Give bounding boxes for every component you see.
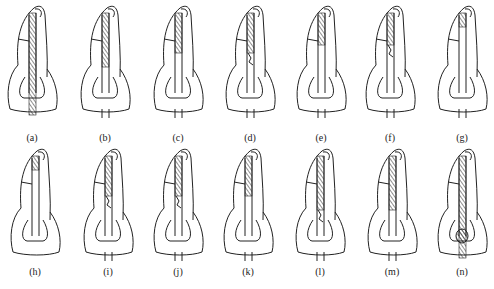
tooth-panel-h <box>11 149 60 255</box>
hatched-filling <box>247 13 254 53</box>
panel-label-j: (j) <box>173 266 182 277</box>
crown-outline <box>226 65 275 112</box>
tooth-panel-b <box>81 6 130 118</box>
post-bulb <box>456 229 468 243</box>
pulp-chamber-outline <box>380 220 405 241</box>
panel-label-f: (f) <box>385 132 395 143</box>
panel-label-b: (b) <box>99 132 111 143</box>
cej-line <box>18 39 29 41</box>
panel-label-i: (i) <box>103 266 112 277</box>
panel-label-h: (h) <box>29 266 41 277</box>
panel-label-m: (m) <box>385 266 399 277</box>
tooth-panel-l <box>296 149 345 261</box>
hatched-filling <box>29 13 36 115</box>
hatched-filling <box>387 13 394 45</box>
crown-outline <box>154 208 203 255</box>
cej-line <box>234 182 245 184</box>
crown-outline <box>368 208 417 255</box>
cej-line <box>306 182 317 184</box>
tooth-panel-c <box>154 6 203 118</box>
pulp-chamber-outline <box>378 77 403 98</box>
broken-fill-fragment <box>318 210 323 222</box>
hatched-filling <box>389 156 396 210</box>
teeth-illustration-canvas <box>0 0 494 289</box>
tooth-panel-i <box>84 149 133 261</box>
tooth-panel-k <box>224 149 273 261</box>
broken-fill-fragment <box>388 45 393 57</box>
pulp-chamber-outline <box>309 77 334 98</box>
hatched-filling <box>459 13 466 27</box>
tooth-panel-m <box>368 149 417 261</box>
crown-outline <box>81 65 130 112</box>
hatched-filling <box>175 156 182 196</box>
tooth-panel-f <box>366 6 415 118</box>
tooth-panel-g <box>438 6 487 118</box>
cej-line <box>448 39 459 41</box>
broken-fill-fragment <box>248 53 253 65</box>
pulp-chamber-outline <box>93 77 118 98</box>
cej-line <box>91 39 102 41</box>
cej-line <box>21 182 32 184</box>
crown-outline <box>11 208 60 255</box>
crown-outline <box>438 65 487 112</box>
tooth-panel-j <box>154 149 203 261</box>
cej-line <box>236 39 247 41</box>
tooth-panel-a <box>8 6 57 115</box>
cej-line <box>164 39 175 41</box>
pulp-chamber-outline <box>96 220 121 241</box>
crown-outline <box>366 65 415 112</box>
crown-outline <box>224 208 273 255</box>
crown-outline <box>154 65 203 112</box>
cej-line <box>448 182 459 184</box>
panel-label-c: (c) <box>172 132 183 143</box>
hatched-filling <box>32 156 39 170</box>
cej-line <box>376 39 387 41</box>
hatched-filling <box>245 156 252 196</box>
crown-outline <box>84 208 133 255</box>
panel-label-k: (k) <box>242 266 254 277</box>
panel-label-g: (g) <box>456 132 468 143</box>
cej-line <box>378 182 389 184</box>
tooth-panel-e <box>297 6 346 118</box>
pulp-chamber-outline <box>238 77 263 98</box>
tooth-panel-d <box>226 6 275 118</box>
pulp-chamber-outline <box>166 77 191 98</box>
pulp-chamber-outline <box>166 220 191 241</box>
cej-line <box>307 39 318 41</box>
broken-fill-fragment <box>176 196 181 208</box>
pulp-chamber-outline <box>450 77 475 98</box>
tooth-panel-n <box>438 149 487 258</box>
pulp-chamber-outline <box>308 220 333 241</box>
cej-line <box>164 182 175 184</box>
panel-label-d: (d) <box>244 132 256 143</box>
hatched-filling <box>102 13 109 67</box>
hatched-filling <box>175 13 182 53</box>
panel-label-a: (a) <box>26 132 37 143</box>
panel-label-n: (n) <box>456 266 468 277</box>
pulp-chamber-outline <box>23 220 48 241</box>
cej-line <box>94 182 105 184</box>
crown-outline <box>297 65 346 112</box>
hatched-filling <box>318 13 325 45</box>
panel-label-l: (l) <box>315 266 324 277</box>
hatched-filling <box>105 156 112 196</box>
broken-fill-fragment <box>106 196 111 208</box>
hatched-filling <box>317 156 324 210</box>
panel-label-e: (e) <box>315 132 326 143</box>
pulp-chamber-outline <box>236 220 261 241</box>
